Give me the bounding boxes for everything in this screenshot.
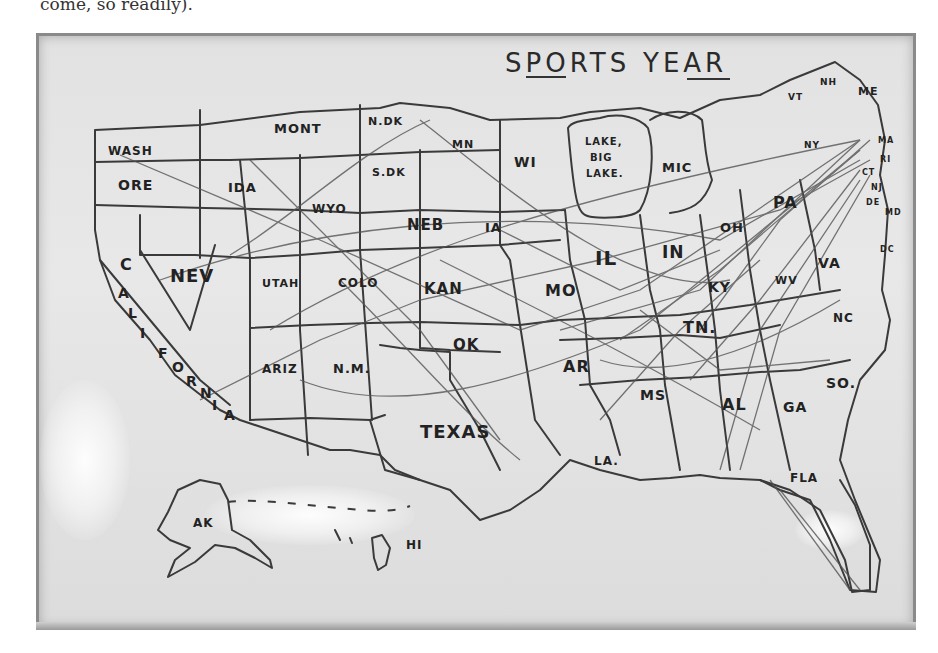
state-label: COLO bbox=[338, 276, 378, 290]
title-year: YEAR bbox=[642, 48, 727, 78]
state-label: WASH bbox=[108, 144, 153, 158]
state-label: IN bbox=[662, 242, 685, 262]
california-letter: L bbox=[128, 305, 138, 321]
state-label: SO. bbox=[826, 375, 856, 391]
state-label: NEV bbox=[170, 265, 214, 286]
state-label: AR bbox=[563, 357, 590, 376]
state-label: MO bbox=[545, 281, 577, 300]
state-label: ORE bbox=[118, 177, 153, 193]
state-label: UTAH bbox=[262, 277, 299, 290]
lake-michigan bbox=[568, 116, 652, 218]
state-label: FLA bbox=[790, 471, 818, 485]
state-label: LA. bbox=[594, 454, 619, 468]
state-label: WV bbox=[775, 274, 798, 287]
state-label: TEXAS bbox=[420, 421, 490, 442]
state-label: IDA bbox=[228, 180, 257, 195]
state-label: NY bbox=[804, 140, 820, 150]
state-label: MIC bbox=[662, 160, 692, 175]
state-label: MONT bbox=[274, 121, 322, 136]
hawaii bbox=[372, 535, 390, 570]
state-label: NH bbox=[820, 77, 837, 87]
state-label: MA bbox=[878, 136, 894, 145]
state-label: TN. bbox=[683, 318, 716, 337]
state-label: PA bbox=[773, 193, 798, 212]
state-label: NEB bbox=[407, 216, 444, 234]
state-label: C bbox=[120, 255, 133, 274]
state-label: ME bbox=[858, 85, 878, 98]
state-label: LAKE, bbox=[585, 136, 623, 147]
state-label: IL bbox=[595, 246, 617, 270]
state-label: HI bbox=[406, 538, 423, 552]
california-letter: R bbox=[186, 373, 198, 389]
state-label: LAKE. bbox=[586, 168, 624, 179]
state-label: MN bbox=[452, 138, 474, 151]
state-labels: WASHOREIDAMONTN.DKS.DKMNWILAKE,BIGLAKE.M… bbox=[108, 77, 902, 552]
state-label: RI bbox=[880, 155, 891, 164]
state-label: IA bbox=[485, 220, 502, 235]
state-label: S.DK bbox=[372, 166, 406, 179]
state-label: ARIZ bbox=[262, 362, 298, 376]
state-label: CT bbox=[862, 168, 875, 177]
california-letter: F bbox=[158, 345, 169, 361]
state-label: MS bbox=[640, 387, 666, 403]
state-label: GA bbox=[783, 399, 807, 415]
california-letter: I bbox=[140, 325, 146, 341]
california-label: ALIFORNIA bbox=[118, 285, 236, 423]
california-letter: A bbox=[224, 407, 236, 423]
state-label: N.M. bbox=[333, 361, 371, 376]
state-label: AK bbox=[193, 516, 214, 530]
state-label: NC bbox=[833, 311, 854, 325]
california-letter: N bbox=[200, 385, 213, 401]
state-label: DE bbox=[866, 198, 880, 207]
state-label: OH bbox=[720, 220, 744, 235]
state-label: WYO bbox=[312, 202, 347, 216]
alaska bbox=[158, 480, 272, 577]
california-letter: O bbox=[172, 359, 185, 375]
state-label: WI bbox=[514, 154, 537, 170]
state-label: KAN bbox=[424, 280, 463, 298]
state-label: OK bbox=[453, 336, 480, 354]
state-label: N.DK bbox=[368, 115, 403, 128]
california-letter: I bbox=[212, 397, 218, 413]
state-label: VA bbox=[818, 255, 841, 271]
state-label: KY bbox=[708, 279, 731, 295]
state-label: NJ bbox=[871, 183, 883, 192]
state-label: AL bbox=[722, 395, 747, 414]
state-label: DC bbox=[880, 245, 895, 254]
state-label: MD bbox=[885, 208, 902, 217]
hand-drawn-us-map: SPORTS YEAR WASHOREIDAMONTN.DKS.DKMNWILA… bbox=[0, 0, 938, 653]
state-label: BIG bbox=[590, 152, 613, 163]
state-label: VT bbox=[788, 92, 803, 102]
california-letter: A bbox=[118, 285, 130, 301]
title-sports: SPORTS bbox=[505, 48, 630, 78]
